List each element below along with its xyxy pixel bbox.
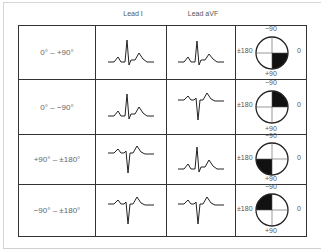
axis-circle-quadrant-bottom-left: −90 ±180 0 +90 bbox=[236, 135, 307, 185]
quadrant-circle-icon bbox=[254, 141, 290, 177]
header-lead-avf: Lead aVF bbox=[168, 10, 238, 17]
axis-label-left: ±180 bbox=[237, 205, 253, 212]
lead-avf-waveform-negative bbox=[167, 80, 236, 135]
range-label: 0° – −90° bbox=[19, 80, 96, 135]
axis-label-right: 0 bbox=[297, 101, 301, 108]
table-row: 0° – +90° −90 ±180 0 +90 bbox=[19, 26, 307, 80]
axis-label-top: −90 bbox=[265, 132, 277, 139]
range-label: 0° – +90° bbox=[19, 26, 96, 80]
axis-label-bottom: +90 bbox=[265, 70, 277, 77]
axis-label-top: −90 bbox=[265, 25, 277, 32]
lead-i-waveform-negative bbox=[96, 185, 167, 237]
lead-avf-waveform-negative bbox=[167, 185, 236, 237]
axis-label-right: 0 bbox=[297, 47, 301, 54]
table-row: −90° – ±180° −90 ±180 0 +90 bbox=[19, 185, 307, 237]
axis-label-bottom: +90 bbox=[265, 227, 277, 234]
quadrant-circle-icon bbox=[254, 35, 290, 71]
axis-label-left: ±180 bbox=[237, 101, 253, 108]
quadrant-circle-icon bbox=[254, 192, 290, 228]
lead-avf-waveform-positive bbox=[167, 135, 236, 185]
lead-i-waveform-positive bbox=[96, 26, 167, 80]
axis-label-bottom: +90 bbox=[265, 125, 277, 132]
axis-circle-quadrant-top-right: −90 ±180 0 +90 bbox=[236, 80, 307, 135]
axis-circle-quadrant-top-left: −90 ±180 0 +90 bbox=[236, 185, 307, 237]
lead-i-waveform-negative bbox=[96, 135, 167, 185]
table-row: 0° – −90° −90 ±180 0 +90 bbox=[19, 80, 307, 135]
axis-circle-quadrant-bottom-right: −90 ±180 0 +90 bbox=[236, 26, 307, 80]
axis-label-left: ±180 bbox=[237, 47, 253, 54]
header-lead-i: Lead I bbox=[98, 10, 168, 17]
range-label: +90° – ±180° bbox=[19, 135, 96, 185]
axis-label-top: −90 bbox=[265, 183, 277, 190]
range-label: −90° – ±180° bbox=[19, 185, 96, 237]
axis-label-left: ±180 bbox=[237, 154, 253, 161]
quadrant-circle-icon bbox=[254, 89, 290, 125]
axis-table: 0° – +90° −90 ±180 0 +90 0° – −90° bbox=[18, 25, 307, 237]
axis-label-top: −90 bbox=[265, 79, 277, 86]
lead-i-waveform-positive bbox=[96, 80, 167, 135]
axis-label-right: 0 bbox=[297, 205, 301, 212]
axis-label-right: 0 bbox=[297, 154, 301, 161]
table-row: +90° – ±180° −90 ±180 0 +90 bbox=[19, 135, 307, 185]
lead-avf-waveform-positive bbox=[167, 26, 236, 80]
